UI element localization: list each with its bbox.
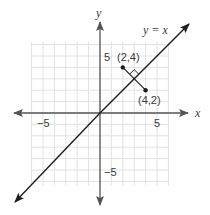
y-tick-label-pos5: 5 xyxy=(104,51,110,63)
x-tick-label-neg5: −5 xyxy=(37,117,50,129)
line-y-equals-x-lower xyxy=(15,113,100,202)
y-axis-label: y xyxy=(95,6,102,20)
line-label: y = x xyxy=(142,23,168,37)
point-label-2-4: (2,4) xyxy=(117,51,140,63)
x-tick-label-pos5: 5 xyxy=(154,117,160,129)
coordinate-plane: x y −5 5 5 −5 y = x (2,4) (4,2) xyxy=(0,0,210,215)
point-2-4 xyxy=(121,65,125,69)
x-axis-label: x xyxy=(194,106,201,120)
point-4-2 xyxy=(143,88,147,92)
point-label-4-2: (4,2) xyxy=(138,94,161,106)
y-tick-label-neg5: −5 xyxy=(104,166,117,178)
